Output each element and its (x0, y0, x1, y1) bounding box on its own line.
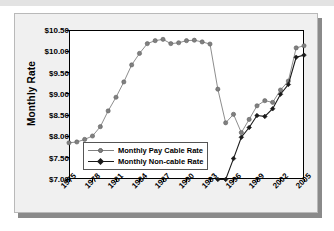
data-point-marker-circle (224, 121, 228, 125)
data-point-marker-circle (255, 104, 259, 108)
legend-marker-diamond-icon (88, 157, 114, 167)
legend-item-pay-cable: Monthly Pay Cable Rate (88, 145, 203, 156)
data-point-marker-circle (184, 39, 188, 43)
legend-label-non-cable: Monthly Non-cable Rate (118, 157, 203, 167)
data-point-marker-circle (200, 40, 204, 44)
data-point-marker-circle (114, 95, 118, 99)
data-point-marker-circle (271, 100, 275, 104)
legend-item-non-cable: Monthly Non-cable Rate (88, 156, 203, 167)
data-point-marker-diamond (231, 156, 236, 161)
x-tick-mark (92, 179, 93, 182)
data-point-marker-circle (177, 41, 181, 45)
data-point-marker-circle (161, 37, 165, 41)
x-tick-mark (186, 179, 187, 182)
data-point-marker-circle (122, 80, 126, 84)
x-tick-mark (163, 179, 164, 182)
chart-area: Monthly Rate $10.50$10.00$9.50$9.00$8.50… (15, 14, 319, 214)
chart-legend: Monthly Pay Cable Rate Monthly Non-cable… (83, 142, 208, 170)
data-point-marker-circle (83, 137, 87, 141)
data-point-marker-circle (98, 125, 102, 129)
data-point-marker-circle (263, 99, 267, 103)
x-tick-mark (233, 179, 234, 182)
x-tick-mark (116, 179, 117, 182)
data-point-marker-circle (192, 38, 196, 42)
x-tick-mark (280, 179, 281, 182)
data-point-marker-circle (153, 39, 157, 43)
x-tick-mark (257, 179, 258, 182)
data-point-marker-circle (247, 117, 251, 121)
x-tick-mark (69, 179, 70, 182)
data-point-marker-circle (106, 109, 110, 113)
data-point-marker-circle (67, 141, 71, 145)
legend-marker-circle-icon (88, 146, 114, 156)
x-tick-mark (139, 179, 140, 182)
legend-label-pay-cable: Monthly Pay Cable Rate (118, 146, 203, 156)
data-point-marker-circle (90, 134, 94, 138)
chart-screenshot: Monthly Rate $10.50$10.00$9.50$9.00$8.50… (0, 0, 334, 231)
data-point-marker-circle (231, 112, 235, 116)
x-tick-mark (210, 179, 211, 182)
data-point-marker-circle (302, 44, 306, 48)
data-point-marker-circle (130, 63, 134, 67)
x-tick-mark (304, 179, 305, 182)
top-strip (0, 0, 334, 6)
data-point-marker-circle (294, 46, 298, 50)
chart-panel: Monthly Rate $10.50$10.00$9.50$9.00$8.50… (14, 13, 318, 213)
data-point-marker-diamond (302, 53, 307, 58)
data-point-marker-circle (169, 42, 173, 46)
series-line (69, 39, 304, 142)
data-point-marker-circle (75, 140, 79, 144)
data-point-marker-circle (145, 42, 149, 46)
data-point-marker-circle (278, 88, 282, 92)
data-point-marker-circle (137, 51, 141, 55)
data-point-marker-circle (208, 42, 212, 46)
data-point-marker-circle (239, 130, 243, 134)
data-point-marker-circle (216, 87, 220, 91)
